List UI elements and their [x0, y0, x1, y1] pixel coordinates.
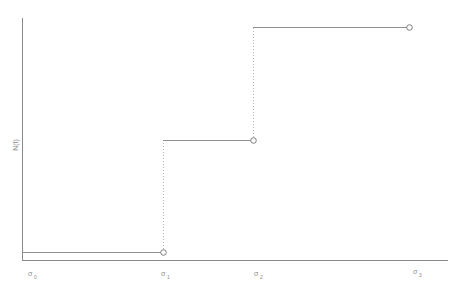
axes-group — [23, 18, 449, 261]
y-axis-title-group: N(t) — [12, 139, 20, 151]
x-tick-subscript-0: 0 — [34, 274, 37, 280]
x-tick-glyph-1: σ — [161, 270, 166, 277]
risers-group — [164, 27, 254, 252]
chart-canvas: N(t) σ 0 σ 1 σ 2 σ 3 — [0, 0, 451, 297]
x-tick-label-sigma-0: σ 0 — [28, 270, 37, 280]
x-tick-labels-group: σ 0 σ 1 σ 2 σ 3 — [28, 268, 422, 280]
y-axis-title: N(t) — [12, 139, 20, 151]
open-circle-sigma-1 — [161, 250, 167, 256]
x-tick-glyph-3: σ — [413, 268, 418, 275]
x-tick-glyph-2: σ — [254, 270, 259, 277]
x-tick-label-sigma-2: σ 2 — [254, 270, 263, 280]
open-circle-sigma-2 — [251, 138, 257, 144]
step-segments-group — [22, 28, 409, 253]
x-tick-label-sigma-1: σ 1 — [161, 270, 170, 280]
step-function-figure: N(t) σ 0 σ 1 σ 2 σ 3 — [0, 0, 451, 297]
x-tick-subscript-2: 2 — [260, 274, 263, 280]
x-tick-subscript-3: 3 — [419, 272, 422, 278]
open-circle-sigma-3 — [407, 25, 413, 31]
x-tick-glyph-0: σ — [28, 270, 33, 277]
x-tick-label-sigma-3: σ 3 — [413, 268, 422, 278]
x-tick-subscript-1: 1 — [167, 274, 170, 280]
